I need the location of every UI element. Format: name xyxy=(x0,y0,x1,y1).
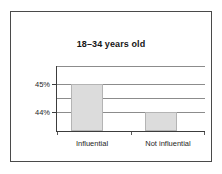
x-tick-end xyxy=(204,132,205,135)
y-tick-label-44: 44% xyxy=(20,108,50,117)
chart-title: 18–34 years old xyxy=(0,39,222,49)
y-axis-line xyxy=(56,66,57,132)
bar-not-influential[interactable] xyxy=(145,112,177,131)
y-tick-label-45: 45% xyxy=(20,80,50,89)
x-tick-start xyxy=(57,132,58,135)
plot-area xyxy=(57,66,205,131)
gridline-top xyxy=(57,66,205,67)
bar-influential[interactable] xyxy=(71,84,103,131)
chart-figure: 18–34 years old 45% 44% Influential Not … xyxy=(0,0,222,174)
y-tick-44 xyxy=(52,112,57,113)
x-category-label-not-influential: Not influential xyxy=(125,139,211,148)
y-tick-45 xyxy=(52,84,57,85)
x-category-label-influential: Influential xyxy=(52,139,132,148)
x-tick-middle xyxy=(131,132,132,135)
